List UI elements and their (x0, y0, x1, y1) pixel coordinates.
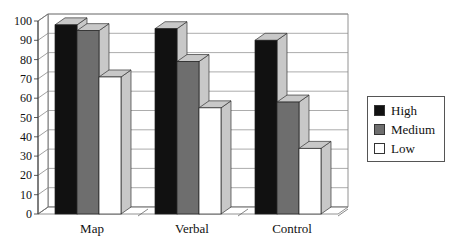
legend-item-medium: Medium (374, 120, 444, 139)
svg-text:50: 50 (20, 111, 32, 125)
svg-text:90: 90 (20, 33, 32, 47)
category-label: Control (272, 221, 312, 236)
bar-verbal-low (199, 101, 231, 214)
legend-swatch-high (374, 105, 385, 116)
legend-swatch-low (374, 143, 385, 154)
svg-text:20: 20 (20, 168, 32, 182)
category-label: Verbal (175, 221, 209, 236)
legend: High Medium Low (367, 96, 445, 162)
svg-text:10: 10 (20, 188, 32, 202)
svg-text:0: 0 (26, 207, 32, 221)
legend-item-high: High (374, 101, 444, 120)
svg-text:80: 80 (20, 53, 32, 67)
category-label: Map (80, 221, 104, 236)
svg-text:30: 30 (20, 149, 32, 163)
legend-swatch-medium (374, 124, 385, 135)
bar-map-low (99, 70, 131, 214)
svg-text:60: 60 (20, 91, 32, 105)
svg-text:70: 70 (20, 72, 32, 86)
legend-label: High (391, 103, 417, 119)
bar-control-low (299, 141, 331, 214)
svg-text:40: 40 (20, 130, 32, 144)
legend-label: Medium (391, 122, 435, 138)
legend-label: Low (391, 141, 415, 157)
svg-text:100: 100 (14, 14, 32, 28)
legend-item-low: Low (374, 139, 444, 158)
